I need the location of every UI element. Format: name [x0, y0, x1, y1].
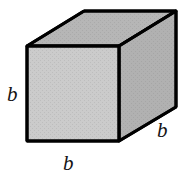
edge-label-width: b — [63, 153, 74, 174]
cube-figure: b b b — [0, 0, 189, 181]
cube-drawing — [0, 0, 189, 181]
edge-label-depth: b — [157, 120, 168, 141]
edge-label-height: b — [7, 84, 18, 105]
front-face — [27, 46, 119, 141]
